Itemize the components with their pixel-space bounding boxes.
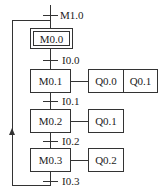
loop-arrow-icon: [9, 128, 15, 135]
action-connector-m0-2: [71, 121, 89, 122]
action-q0-1: Q0.1: [123, 69, 158, 93]
step-m0-1: M0.1: [30, 69, 71, 93]
loop-left-line: [12, 20, 13, 186]
action-connector-m0-1: [71, 81, 89, 82]
initial-step-m0-0: M0.0: [33, 31, 70, 46]
action-q0-0: Q0.0: [88, 69, 124, 93]
transition-label-m1-0: M1.0: [60, 9, 84, 21]
action-connector-m0-3: [71, 160, 89, 161]
transition-label-i0-3: I0.3: [62, 175, 79, 187]
transition-bar-i0-2: [43, 141, 58, 142]
transition-label-i0-1: I0.1: [62, 95, 79, 107]
transition-bar-i0-0: [43, 60, 58, 61]
loop-top-line: [12, 20, 51, 21]
step-m0-2: M0.2: [30, 109, 71, 133]
transition-bar-m1-0: [43, 15, 58, 16]
loop-bottom-line: [12, 185, 51, 186]
transition-bar-i0-3: [43, 181, 58, 182]
transition-label-i0-2: I0.2: [62, 135, 79, 147]
transition-label-i0-0: I0.0: [62, 54, 79, 66]
transition-bar-i0-1: [43, 101, 58, 102]
action-q0-1-step2: Q0.1: [88, 109, 124, 133]
step-m0-3: M0.3: [30, 148, 71, 172]
action-q0-2: Q0.2: [88, 148, 124, 172]
